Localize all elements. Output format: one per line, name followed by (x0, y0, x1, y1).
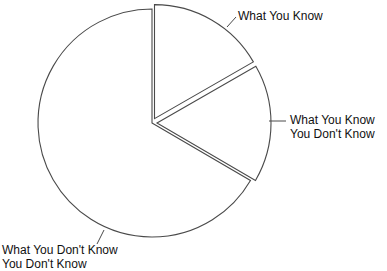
pie-slices (38, 5, 271, 237)
label-wydkydk-line1: What You Don't Know (2, 243, 118, 257)
label-wydkydk-line2: You Don't Know (2, 257, 118, 271)
leader-line-what-you-dont-know (97, 230, 104, 244)
label-wykydk-line1: What You Know (290, 113, 375, 127)
label-what-you-know-line1: What You Know (238, 9, 323, 23)
label-wykydk-line2: You Don't Know (290, 127, 375, 141)
leader-line-what-you-know (227, 17, 236, 27)
label-what-you-know: What You Know (238, 9, 323, 23)
label-what-you-dont-know-you-dont-know: What You Don't Know You Don't Know (2, 243, 118, 271)
label-what-you-know-you-dont-know: What You Know You Don't Know (290, 113, 375, 141)
